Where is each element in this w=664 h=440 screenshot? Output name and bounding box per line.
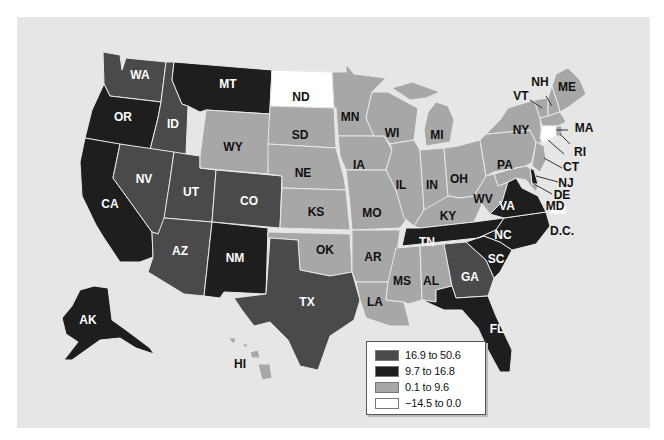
label-dc: D.C.: [550, 224, 574, 238]
label-pa: PA: [497, 158, 513, 172]
label-ny: NY: [513, 123, 530, 137]
legend-swatch: [375, 366, 399, 377]
label-ar: AR: [364, 250, 382, 264]
label-id: ID: [167, 117, 179, 131]
label-ky: KY: [440, 209, 457, 223]
label-tn: TN: [419, 235, 435, 249]
label-md: MD: [546, 199, 565, 213]
label-wi: WI: [385, 126, 400, 140]
state-ak[interactable]: [62, 286, 154, 360]
label-nv: NV: [136, 172, 153, 186]
label-fl: FL: [490, 322, 505, 336]
legend-label: 16.9 to 50.6: [405, 349, 461, 361]
label-mn: MN: [341, 110, 360, 124]
label-ga: GA: [461, 270, 479, 284]
label-mt: MT: [219, 77, 237, 91]
label-va: VA: [499, 199, 515, 213]
label-nm: NM: [226, 251, 245, 265]
label-nd: ND: [292, 90, 310, 104]
label-oh: OH: [450, 172, 468, 186]
label-ut: UT: [183, 185, 200, 199]
legend-item-high: 16.9 to 50.6: [375, 348, 461, 362]
legend-swatch: [375, 350, 399, 361]
label-sc: SC: [488, 252, 505, 266]
state-ia[interactable]: [338, 136, 392, 170]
label-nc: NC: [494, 228, 512, 242]
legend-label: −14.5 to 0.0: [405, 397, 461, 409]
label-la: LA: [367, 295, 383, 309]
label-vt: VT: [513, 89, 529, 103]
legend-item-negative: −14.5 to 0.0: [375, 396, 461, 410]
label-ne: NE: [295, 166, 312, 180]
legend-label: 9.7 to 16.8: [405, 365, 455, 377]
legend-item-low: 0.1 to 9.6: [375, 380, 449, 394]
label-in: IN: [426, 178, 438, 192]
label-mo: MO: [362, 206, 381, 220]
label-nh: NH: [531, 75, 548, 89]
us-choropleth-map: WA OR CA ID NV UT AZ MT WY CO NM ND SD N…: [0, 0, 664, 440]
label-wv: WV: [473, 192, 492, 206]
label-ma: MA: [575, 121, 594, 135]
legend-swatch: [375, 382, 399, 393]
legend-item-mid: 9.7 to 16.8: [375, 364, 455, 378]
label-ct: CT: [563, 160, 580, 174]
legend-swatch: [375, 398, 399, 409]
label-ok: OK: [316, 243, 334, 257]
label-mi: MI: [430, 128, 443, 142]
label-ks: KS: [308, 205, 325, 219]
legend-label: 0.1 to 9.6: [405, 381, 449, 393]
label-wa: WA: [130, 68, 150, 82]
label-sd: SD: [292, 128, 309, 142]
label-az: AZ: [172, 244, 188, 258]
label-ia: IA: [353, 158, 365, 172]
label-hi: HI: [234, 357, 246, 371]
label-ca: CA: [101, 197, 119, 211]
label-ri: RI: [574, 145, 586, 159]
label-co: CO: [240, 194, 258, 208]
label-ms: MS: [393, 274, 411, 288]
label-al: AL: [423, 274, 439, 288]
label-me: ME: [558, 80, 576, 94]
label-il: IL: [396, 178, 407, 192]
label-tx: TX: [299, 295, 314, 309]
state-ct[interactable]: [540, 126, 556, 144]
label-wy: WY: [223, 140, 242, 154]
label-ak: AK: [79, 313, 97, 327]
map-legend: 16.9 to 50.6 9.7 to 16.8 0.1 to 9.6 −14.…: [366, 341, 486, 415]
label-or: OR: [114, 110, 132, 124]
